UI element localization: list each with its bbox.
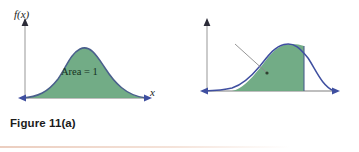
curve-left-arrowhead-b [200,87,208,94]
figure-panel-b: f(x) x P(a ≤ X ≤ b) a b Figure 11(b) [180,0,359,152]
bottom-divider-rule [0,146,290,148]
area-annotation-a: Area = 1 [61,66,98,77]
plot-area-b [180,0,359,112]
figure-panel-a: f(x) x Area = 1 Figure 11(a) [0,0,180,152]
figure-caption-a: Figure 11(a) [10,117,76,129]
y-axis-label-a: f(x) [14,8,29,20]
y-axis-a [22,18,29,98]
x-axis-label-a: x [150,86,155,98]
curve-left-arrowhead-a [18,94,26,101]
curve-right-arrowhead-b [332,87,340,94]
annotation-pointer-b [235,44,269,75]
y-axis-b [204,18,211,91]
